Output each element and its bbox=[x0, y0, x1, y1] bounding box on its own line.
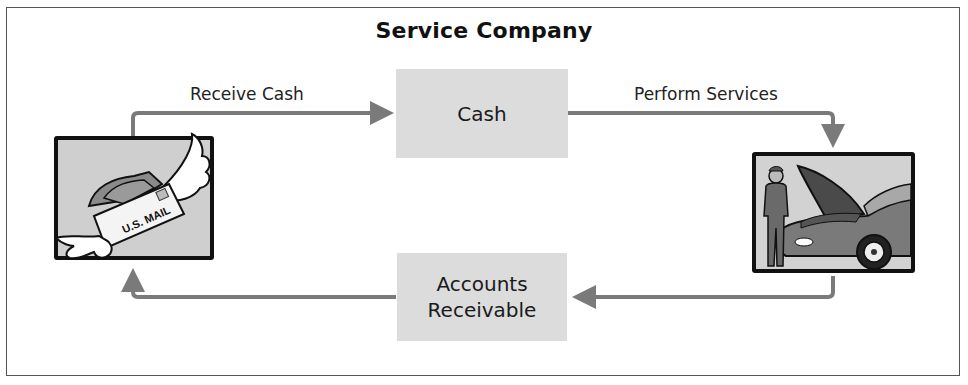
cash-node: Cash bbox=[396, 69, 568, 158]
ar-label-line1: Accounts bbox=[428, 271, 537, 297]
services-to-ar-arrow bbox=[578, 276, 833, 297]
mechanic-car-icon bbox=[756, 156, 911, 269]
ar-to-mail-arrow bbox=[133, 274, 396, 297]
perform-services-label: Perform Services bbox=[634, 84, 778, 104]
accounts-receivable-node: Accounts Receivable bbox=[397, 253, 567, 341]
winged-envelope-icon: U.S. MAIL bbox=[44, 126, 244, 266]
cash-node-label: Cash bbox=[457, 101, 506, 127]
mail-illustration: U.S. MAIL bbox=[54, 136, 214, 260]
perform-services-arrow bbox=[568, 113, 833, 142]
mechanic-illustration bbox=[752, 152, 915, 273]
ar-label-line2: Receivable bbox=[428, 297, 537, 323]
receive-cash-label: Receive Cash bbox=[190, 84, 304, 104]
